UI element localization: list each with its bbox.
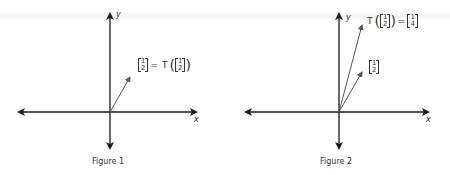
figure-2-caption: Figure 2 <box>320 157 352 166</box>
figure-2-vector-label: 12 <box>369 60 379 74</box>
matrix-arg: 12 <box>175 58 185 72</box>
figure-1-y-label: y <box>116 10 121 19</box>
matrix-left: 12 <box>138 58 148 72</box>
figure-1-caption: Figure 1 <box>92 157 124 166</box>
figure-1-vector-label: 12=T(12) <box>138 58 191 72</box>
figure-2-axes <box>246 14 428 148</box>
figure-2-y-label: y <box>346 13 351 22</box>
figure-1-axes <box>19 14 196 148</box>
figure-2-vectors <box>339 25 362 112</box>
matrix-result: 14 <box>407 14 417 28</box>
figure-2-transformed-label: T(12)=14 <box>365 14 418 28</box>
matrix-v: 12 <box>369 60 379 74</box>
figure-1-vector <box>110 77 130 112</box>
figure-1-x-label: x <box>194 115 199 124</box>
figure-2-x-label: x <box>426 115 431 124</box>
matrix-arg: 12 <box>380 14 390 28</box>
